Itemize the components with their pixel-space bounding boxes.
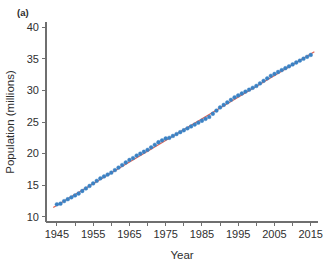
data-point [229, 98, 233, 102]
x-axis-ticks [57, 222, 311, 226]
data-point [157, 140, 161, 144]
data-point [120, 163, 124, 167]
data-point [146, 148, 150, 152]
data-point [254, 84, 258, 88]
data-point [77, 192, 81, 196]
data-point [182, 128, 186, 132]
data-point [167, 136, 171, 140]
data-point [291, 63, 295, 67]
population-scatter-chart: (a) 10152025303540 194519551965197519851… [0, 0, 324, 270]
data-point [302, 57, 306, 61]
data-point [138, 152, 142, 156]
data-point [153, 143, 157, 147]
data-point [69, 195, 73, 199]
data-point [294, 61, 298, 65]
data-point [80, 189, 84, 193]
data-point [283, 66, 287, 70]
data-point [233, 95, 237, 99]
data-point [91, 181, 95, 185]
x-tick-label: 1995 [226, 228, 250, 240]
data-point [247, 88, 251, 92]
data-point [240, 92, 244, 96]
x-tick-label: 1975 [153, 228, 177, 240]
data-point [171, 134, 175, 138]
y-tick-label: 20 [27, 147, 39, 159]
data-point [265, 76, 269, 80]
data-point [113, 168, 117, 172]
y-tick-label: 10 [27, 211, 39, 223]
data-point [189, 125, 193, 129]
y-tick-label: 15 [27, 179, 39, 191]
data-point [305, 55, 309, 59]
figure-panel: (a) 10152025303540 194519551965197519851… [0, 0, 324, 270]
data-point [186, 126, 190, 130]
data-point [142, 150, 146, 154]
y-tick-label: 30 [27, 84, 39, 96]
y-axis-ticks [42, 27, 46, 217]
data-point [124, 161, 128, 165]
data-point [200, 119, 204, 123]
data-point [84, 187, 88, 191]
data-point [149, 145, 153, 149]
x-tick-label: 1985 [190, 228, 214, 240]
x-tick-label: 1965 [117, 228, 141, 240]
data-point [99, 176, 103, 180]
y-tick-label: 25 [27, 116, 39, 128]
data-point [236, 94, 240, 98]
y-tick-label: 35 [27, 53, 39, 65]
data-point [225, 100, 229, 104]
y-axis-tick-labels: 10152025303540 [27, 21, 39, 223]
data-point [280, 68, 284, 72]
data-point [204, 117, 208, 121]
data-point [244, 90, 248, 94]
data-point [211, 112, 215, 116]
data-point [309, 53, 313, 57]
data-point [106, 173, 110, 177]
data-point [193, 123, 197, 127]
x-tick-label: 1945 [45, 228, 69, 240]
data-point [175, 132, 179, 136]
data-point [164, 137, 168, 141]
data-point [73, 194, 77, 198]
data-point [131, 156, 135, 160]
x-tick-label: 2005 [262, 228, 286, 240]
data-point [273, 72, 277, 76]
data-point [218, 106, 222, 110]
data-point [269, 74, 273, 78]
y-axis-title: Population (millions) [4, 70, 16, 174]
data-point [88, 184, 92, 188]
data-point [276, 70, 280, 74]
data-point [251, 86, 255, 90]
x-axis-tick-labels: 19451955196519751985199520052015 [45, 228, 323, 240]
x-tick-label: 2015 [299, 228, 323, 240]
data-point [222, 103, 226, 107]
data-point [196, 121, 200, 125]
data-point [109, 171, 113, 175]
data-point [102, 175, 106, 179]
data-point [95, 179, 99, 183]
y-tick-label: 40 [27, 21, 39, 33]
data-point [215, 109, 219, 113]
data-point [66, 197, 70, 201]
data-point [128, 158, 132, 162]
data-point [258, 81, 262, 85]
data-point [62, 199, 66, 203]
panel-label: (a) [17, 7, 29, 18]
data-point [207, 115, 211, 119]
data-point [178, 130, 182, 134]
data-point [262, 79, 266, 83]
data-point [287, 64, 291, 68]
data-point [59, 202, 63, 206]
data-point [55, 202, 59, 206]
data-point [160, 138, 164, 142]
data-point [135, 154, 139, 158]
x-axis-title: Year [170, 249, 193, 261]
data-point [298, 59, 302, 63]
x-tick-label: 1955 [81, 228, 105, 240]
data-point [117, 166, 121, 170]
